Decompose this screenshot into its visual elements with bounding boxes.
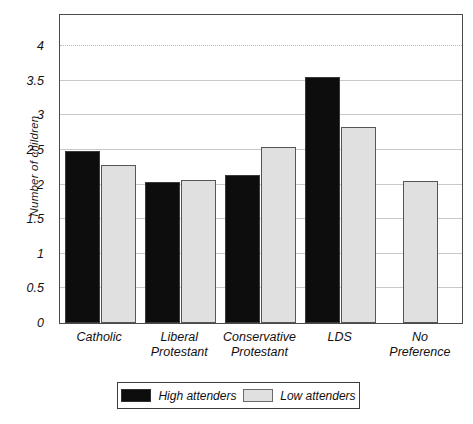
legend-entry-high-attenders: High attenders [121, 389, 236, 403]
y-tick-label: 3 [37, 108, 44, 122]
chart-legend: High attendersLow attenders [117, 382, 360, 409]
y-tick-label: 1.5 [27, 212, 44, 226]
x-axis-tick-labels: CatholicLiberalProtestantConservativePro… [59, 330, 463, 370]
y-tick-label: 3.5 [27, 74, 44, 88]
bar-series-container [60, 15, 461, 323]
y-tick-label: 0.5 [27, 281, 44, 295]
bar-low-attenders-catholic [101, 165, 136, 323]
bar-low-attenders-lds [341, 127, 376, 323]
legend-swatch-icon [243, 389, 273, 402]
legend-label: High attenders [158, 389, 236, 403]
bar-chart-figure: Number of children 00.511.522.533.54 Cat… [0, 0, 473, 424]
legend-swatch-icon [121, 389, 151, 402]
y-axis-tick-labels: 00.511.522.533.54 [0, 14, 52, 324]
bar-high-attenders-liberal-protestant [145, 182, 180, 323]
bar-low-attenders-conservative-protestant [261, 147, 296, 323]
bar-low-attenders-no-preference [403, 181, 438, 323]
bar-low-attenders-liberal-protestant [181, 180, 216, 323]
y-tick-label: 2.5 [27, 143, 44, 157]
bar-high-attenders-conservative-protestant [225, 175, 260, 323]
y-tick-label: 2 [37, 178, 44, 192]
legend-label: Low attenders [280, 389, 355, 403]
bar-high-attenders-catholic [65, 151, 100, 323]
x-tick-label-no-preference: NoPreference [370, 330, 470, 360]
bar-high-attenders-lds [305, 77, 340, 323]
y-tick-label: 0 [37, 316, 44, 330]
y-tick-label: 1 [37, 247, 44, 261]
x-tick-label-line: No [370, 330, 470, 345]
x-tick-label-line: Protestant [209, 345, 309, 360]
y-tick-label: 4 [37, 39, 44, 53]
legend-entry-low-attenders: Low attenders [243, 389, 355, 403]
x-tick-label-line: Preference [370, 345, 470, 360]
